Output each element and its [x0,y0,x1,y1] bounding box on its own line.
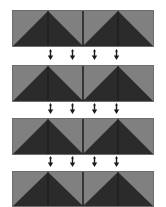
arrow-down-icon [90,156,99,167]
arrow-down-icon [68,49,77,60]
arrow-row-2 [0,103,166,114]
arrow-down-icon [90,49,99,60]
cell-3-3 [83,119,118,154]
cell-4-1 [13,172,48,206]
cell-4-3 [83,172,118,206]
arrow-down-icon [46,49,55,60]
arrow-row-3 [0,156,166,167]
arrow-down-icon [90,103,99,114]
arrow-row-1 [0,49,166,60]
cell-2-1 [13,66,48,101]
cell-1-3 [83,11,118,46]
cell-2-3 [83,66,118,101]
arrow-down-icon [46,156,55,167]
cell-3-1 [13,119,48,154]
arrow-down-icon [112,103,121,114]
pattern-figure [0,0,166,207]
cell-1-2 [48,11,83,46]
cell-1-1 [13,11,48,46]
band-4 [12,171,154,207]
band-3 [12,118,154,155]
band-1 [12,10,154,47]
arrow-down-icon [46,103,55,114]
arrow-down-icon [112,49,121,60]
cell-4-2 [48,172,83,206]
cell-3-4 [118,119,153,154]
cell-2-2 [48,66,83,101]
cell-4-4 [118,172,153,206]
cell-3-2 [48,119,83,154]
arrow-down-icon [68,156,77,167]
cell-1-4 [118,11,153,46]
band-2 [12,65,154,102]
cell-2-4 [118,66,153,101]
arrow-down-icon [112,156,121,167]
arrow-down-icon [68,103,77,114]
